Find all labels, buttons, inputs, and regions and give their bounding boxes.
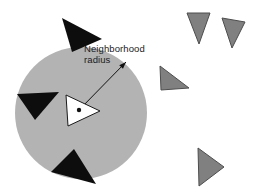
diagram-canvas: Neighborhood radius: [0, 0, 263, 194]
outside-agent-triangle: [160, 66, 189, 90]
outside-agent-triangle: [198, 148, 224, 186]
outside-agent-triangle: [222, 18, 245, 48]
diagram-svg: [0, 0, 263, 194]
outside-agent-triangle: [187, 13, 210, 44]
focal-agent-center-dot: [77, 108, 81, 112]
neighborhood-radius-label-line-2: radius: [84, 54, 110, 65]
neighborhood-radius-label-line-1: Neighborhood: [84, 43, 145, 54]
